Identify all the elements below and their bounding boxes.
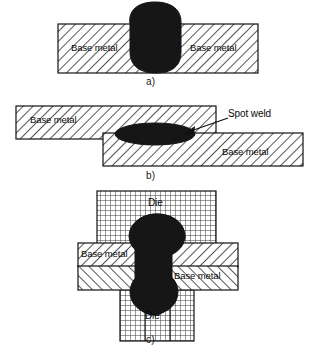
panel-c-label-die-upper: Die	[148, 197, 163, 208]
panel-c-caption: c)	[146, 334, 155, 345]
panel-b-annotation-spot-weld: Spot weld	[228, 108, 271, 119]
panel-a-label-base-metal-right: Base metal	[190, 42, 237, 53]
panel-c-label-base-metal-lower: Base metal	[174, 270, 221, 281]
panel-c-weld-rivet-head	[129, 214, 185, 258]
panel-b-label-base-metal-lower: Base metal	[222, 146, 269, 157]
panel-b-caption: b)	[146, 170, 155, 181]
panel-a-weld-nugget	[130, 2, 181, 73]
panel-c-label-base-metal-upper: Base metal	[81, 248, 128, 259]
panel-a-group	[58, 2, 258, 73]
figure-canvas	[0, 0, 312, 355]
panel-b-spot-weld-nugget	[115, 123, 195, 145]
panel-a-caption: a)	[146, 76, 155, 87]
panel-c-label-die-lower: Die	[145, 310, 160, 321]
weld-cross-section-figure: Base metal Base metal a) Base metal Base…	[0, 0, 312, 355]
panel-b-label-base-metal-upper: Base metal	[30, 114, 77, 125]
panel-a-label-base-metal-left: Base metal	[71, 42, 118, 53]
